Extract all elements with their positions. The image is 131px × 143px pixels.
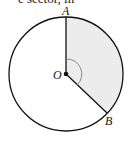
- label-b: B: [105, 114, 113, 128]
- circle-diagram: A O B: [0, 0, 131, 143]
- label-a: A: [61, 4, 70, 18]
- label-o: O: [53, 68, 62, 82]
- shaded-sector: [66, 17, 122, 113]
- center-point: [64, 72, 69, 77]
